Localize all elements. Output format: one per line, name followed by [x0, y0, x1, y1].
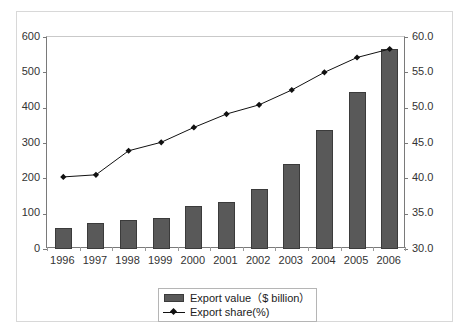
left-axis-tick-label: 100: [22, 207, 40, 218]
bar-swatch-icon: [163, 291, 185, 305]
left-axis-tick-label: 500: [22, 66, 40, 77]
x-axis-tick-label-1996: 1996: [46, 254, 79, 267]
right-axis-tick: [404, 108, 408, 109]
left-axis-tick: [43, 178, 47, 179]
x-axis-tick: [145, 247, 146, 251]
right-axis-labels: 30.035.040.045.050.055.060.0: [412, 36, 462, 248]
x-axis-tick-label-1998: 1998: [111, 254, 144, 267]
line-marker-1999: [158, 139, 164, 145]
line-series-layer: [47, 37, 406, 249]
left-axis-tick: [43, 72, 47, 73]
x-axis-tick: [373, 247, 374, 251]
legend-item-export-share: Export share(%): [163, 305, 310, 319]
left-axis-tick: [43, 108, 47, 109]
chart-figure: 0100200300400500600 30.035.040.045.050.0…: [0, 0, 470, 334]
left-axis-tick-label: 300: [22, 137, 40, 148]
right-axis-tick: [404, 214, 408, 215]
chart-legend: Export value（$ billion） Export share(%): [158, 288, 317, 322]
left-axis-tick-label: 200: [22, 172, 40, 183]
line-marker-swatch-icon: [163, 305, 185, 319]
x-axis-tick: [275, 247, 276, 251]
x-axis-labels: 1996199719981999200020012002200320042005…: [46, 254, 405, 270]
right-axis-tick: [404, 143, 408, 144]
line-marker-2005: [354, 54, 360, 60]
right-axis-tick: [404, 178, 408, 179]
right-axis-tick: [404, 72, 408, 73]
x-axis-tick-label-2004: 2004: [307, 254, 340, 267]
x-axis-tick-label-1997: 1997: [79, 254, 112, 267]
x-axis-tick-label-2002: 2002: [242, 254, 275, 267]
left-axis-tick-label: 0: [34, 243, 40, 254]
line-marker-2006: [387, 46, 393, 52]
line-marker-2000: [191, 124, 197, 130]
x-axis-tick: [243, 247, 244, 251]
x-axis-tick-label-2006: 2006: [372, 254, 405, 267]
left-axis-labels: 0100200300400500600: [0, 36, 40, 248]
x-axis-tick-label-2001: 2001: [209, 254, 242, 267]
x-axis-tick: [178, 247, 179, 251]
left-axis-tick-label: 400: [22, 101, 40, 112]
x-axis-tick-label-2005: 2005: [340, 254, 373, 267]
legend-label-export-value: Export value（$ billion）: [190, 292, 310, 305]
x-axis-tick-label-2003: 2003: [274, 254, 307, 267]
x-axis-tick: [405, 247, 406, 251]
x-axis-tick: [47, 247, 48, 251]
x-axis-tick-label-2000: 2000: [177, 254, 210, 267]
left-axis-tick: [43, 143, 47, 144]
x-axis-tick: [80, 247, 81, 251]
left-axis-tick-label: 600: [22, 31, 40, 42]
right-axis-tick-label: 55.0: [412, 66, 433, 77]
legend-item-export-value: Export value（$ billion）: [163, 291, 310, 305]
right-axis-tick-label: 60.0: [412, 31, 433, 42]
x-axis-tick: [112, 247, 113, 251]
right-axis-tick-label: 40.0: [412, 172, 433, 183]
x-axis-tick: [308, 247, 309, 251]
export-share-markers: [60, 46, 393, 180]
line-marker-2002: [256, 102, 262, 108]
right-axis-tick-label: 45.0: [412, 137, 433, 148]
x-axis-tick: [210, 247, 211, 251]
right-axis-tick: [404, 37, 408, 38]
x-axis-tick-label-1999: 1999: [144, 254, 177, 267]
left-axis-tick: [43, 214, 47, 215]
line-marker-2001: [223, 111, 229, 117]
left-axis-tick: [43, 37, 47, 38]
line-marker-1996: [60, 174, 66, 180]
line-marker-2004: [321, 69, 327, 75]
legend-label-export-share: Export share(%): [190, 306, 269, 319]
right-axis-tick-label: 30.0: [412, 243, 433, 254]
right-axis-tick-label: 35.0: [412, 207, 433, 218]
plot-area: [46, 36, 405, 248]
x-axis-tick: [341, 247, 342, 251]
line-marker-2003: [289, 87, 295, 93]
right-axis-tick-label: 50.0: [412, 101, 433, 112]
